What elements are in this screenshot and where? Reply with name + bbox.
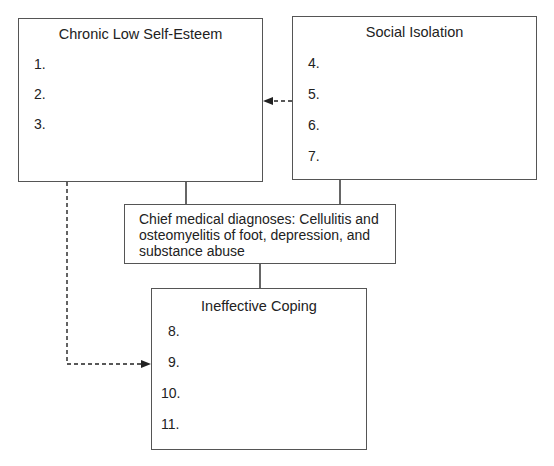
list-item: 10.	[161, 385, 180, 401]
node-chief-diagnoses: Chief medical diagnoses: Cellulitis and …	[124, 204, 396, 264]
list-item: 3.	[34, 116, 46, 132]
list-item: 8.	[168, 323, 180, 339]
list-item: 11.	[161, 416, 179, 432]
list-item: 6.	[308, 117, 320, 133]
node-title: Ineffective Coping	[152, 298, 366, 314]
node-chronic-low-self-esteem: Chronic Low Self-Esteem 1. 2. 3.	[18, 18, 263, 182]
node-social-isolation: Social Isolation 4. 5. 6. 7.	[292, 16, 537, 180]
node-title: Social Isolation	[293, 24, 536, 40]
list-item: 5.	[308, 86, 320, 102]
node-ineffective-coping: Ineffective Coping 8. 9. 10. 11.	[151, 288, 367, 450]
chief-diagnoses-text: Chief medical diagnoses: Cellulitis and …	[139, 211, 389, 259]
list-item: 2.	[34, 86, 46, 102]
list-item: 9.	[168, 354, 180, 370]
list-item: 4.	[308, 55, 320, 71]
list-item: 1.	[34, 56, 46, 72]
node-title: Chronic Low Self-Esteem	[19, 26, 262, 42]
list-item: 7.	[308, 148, 320, 164]
